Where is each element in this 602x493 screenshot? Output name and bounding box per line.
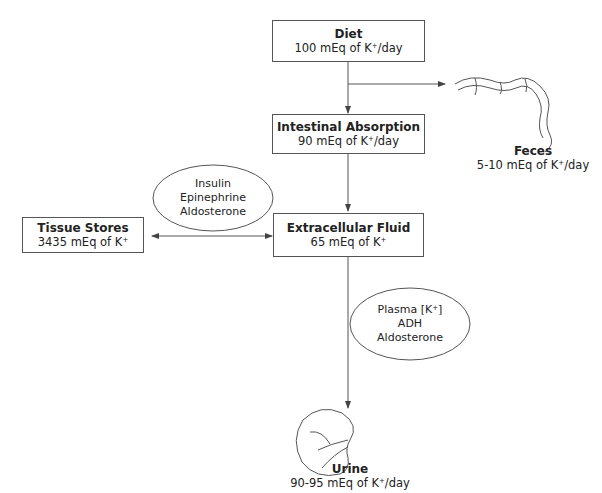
node-value: 90-95 mEq of K — [290, 476, 379, 490]
node-value: 65 mEq of K — [311, 235, 381, 249]
node-title: Urine — [280, 462, 420, 476]
node-diet: Diet 100 mEq of K+/day — [272, 20, 425, 62]
node-title: Diet — [273, 27, 424, 41]
node-value: 90 mEq of K — [298, 134, 368, 148]
node-title: Feces — [468, 144, 598, 158]
node-extracellular-fluid: Extracellular Fluid 65 mEq of K+ — [273, 213, 424, 257]
node-value: 5-10 mEq of K — [477, 158, 558, 172]
node-value: 3435 mEq of K — [38, 235, 123, 249]
node-value: 100 mEq of K — [294, 41, 371, 55]
node-intestinal-absorption: Intestinal Absorption 90 mEq of K+/day — [272, 114, 425, 154]
node-title: Extracellular Fluid — [274, 221, 423, 235]
intestine-icon — [455, 78, 552, 152]
regulators-renal: Plasma [K+] ADH Aldosterone — [350, 288, 470, 360]
node-title: Tissue Stores — [23, 221, 143, 235]
node-urine: Urine 90-95 mEq of K+/day — [280, 462, 420, 490]
node-title: Intestinal Absorption — [273, 120, 424, 134]
node-tissue-stores: Tissue Stores 3435 mEq of K+ — [22, 217, 144, 253]
node-feces: Feces 5-10 mEq of K+/day — [468, 144, 598, 172]
regulators-tissue: Insulin Epinephrine Aldosterone — [153, 165, 273, 231]
